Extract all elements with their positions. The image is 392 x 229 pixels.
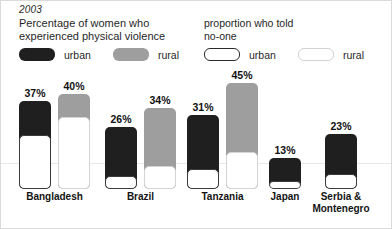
chart-title-left: Percentage of women who experienced phys… [19, 17, 209, 43]
category-label: Serbia &Montenegro [309, 191, 373, 214]
value-label-urban: 31% [187, 101, 219, 113]
legend-swatch-rural-solid [113, 48, 149, 61]
category-label: Brazil [105, 191, 176, 203]
bar-urban [105, 127, 137, 189]
bar-group: 13%Japan [269, 69, 301, 229]
told-no-one-segment-rural [226, 152, 258, 189]
told-no-one-segment-rural [58, 117, 90, 189]
told-no-one-segment-urban [269, 181, 301, 189]
plot-area: 37%40%Bangladesh26%34%Brazil31%45%Tanzan… [1, 69, 392, 229]
chart-title-left-line1: Percentage of women who [19, 17, 209, 30]
legend-item-urban-hollow: urban [204, 48, 276, 61]
chart-title-left-line2: experienced physical violence [19, 30, 209, 43]
legend-label-urban-solid: urban [64, 49, 91, 61]
value-label-rural: 40% [58, 80, 90, 92]
category-label: Japan [269, 191, 301, 203]
bar-rural [144, 108, 176, 189]
bar-group: 26%34%Brazil [105, 69, 176, 229]
bar-urban [269, 158, 301, 189]
told-no-one-segment-urban [325, 174, 357, 189]
value-label-urban: 26% [105, 113, 137, 125]
value-label-urban: 23% [325, 120, 357, 132]
chart-title-right-line2: no-one [204, 30, 379, 43]
value-label-rural: 45% [226, 69, 258, 81]
legend-label-rural-solid: rural [158, 49, 179, 61]
value-label-urban: 13% [269, 144, 301, 156]
legend-item-rural-hollow: rural [298, 48, 364, 61]
bar-urban [19, 101, 51, 189]
value-label-urban: 37% [19, 87, 51, 99]
chart-title-right-line1: proportion who told [204, 17, 379, 30]
bar-rural [226, 83, 258, 189]
legend-swatch-urban-solid [19, 48, 55, 61]
value-label-rural: 34% [144, 94, 176, 106]
bar-group: 37%40%Bangladesh [19, 69, 90, 229]
legend-label-urban-hollow: urban [249, 49, 276, 61]
legend-swatch-urban-hollow [204, 48, 240, 61]
told-no-one-segment-urban [19, 135, 51, 189]
year-label: 2003 [19, 4, 42, 15]
chart-title-right: proportion who told no-one [204, 17, 379, 43]
legend-item-urban-solid: urban [19, 48, 91, 61]
legend-swatch-rural-hollow [298, 48, 334, 61]
bar-urban [187, 115, 219, 189]
legend-label-rural-hollow: rural [343, 49, 364, 61]
told-no-one-segment-urban [105, 176, 137, 189]
chart-container: 2003 Percentage of women who experienced… [0, 0, 392, 229]
bar-group: 23%Serbia &Montenegro [325, 69, 357, 229]
told-no-one-segment-urban [187, 169, 219, 189]
category-label-line1: Serbia & [309, 191, 373, 203]
bar-rural [58, 94, 90, 189]
bar-urban [325, 134, 357, 189]
bar-group: 31%45%Tanzania [187, 69, 258, 229]
told-no-one-segment-rural [144, 166, 176, 189]
category-label: Bangladesh [19, 191, 90, 203]
legend-item-rural-solid: rural [113, 48, 179, 61]
category-label: Tanzania [187, 191, 258, 203]
category-label-line2: Montenegro [309, 203, 373, 215]
